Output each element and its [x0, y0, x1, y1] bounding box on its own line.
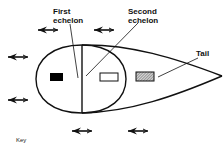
second-echelon-label-line1: Second	[128, 7, 158, 16]
echelon-formation-diagram	[0, 0, 224, 145]
second-echelon-label-line2: echelon	[128, 16, 158, 25]
second-echelon-unit-icon	[100, 73, 118, 81]
arrow-left-icon	[8, 54, 28, 61]
first-echelon-label-line2: echelon	[53, 16, 83, 25]
tail-label: Tail	[196, 49, 209, 58]
leader-lines	[70, 23, 198, 78]
key-label: Key	[16, 137, 26, 143]
arrow-left-icon	[38, 27, 58, 34]
first-echelon-label: First echelon	[53, 7, 83, 25]
arrow-left-icon	[72, 128, 92, 135]
formation-outline	[36, 45, 222, 113]
first-echelon-label-line1: First	[53, 7, 83, 16]
arrow-left-icon	[8, 97, 28, 104]
tail-unit-icon	[136, 72, 154, 81]
arrow-left-icon	[128, 128, 148, 135]
second-echelon-label: Second echelon	[128, 7, 158, 25]
movement-arrows	[8, 27, 148, 135]
tail-lower-edge	[82, 76, 222, 113]
first-echelon-leader	[70, 24, 78, 78]
arrow-left-icon	[94, 27, 114, 34]
first-echelon-unit-icon	[50, 73, 63, 81]
